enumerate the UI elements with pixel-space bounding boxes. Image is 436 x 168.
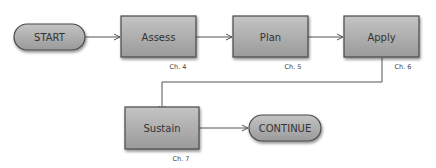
node-start-label: START [34,32,66,43]
node-assess-label: Assess [142,32,176,43]
node-continue-label: CONTINUE [259,123,312,134]
node-apply-label: Apply [367,32,395,43]
node-plan-chapter: Ch. 5 [285,63,302,71]
flowchart: START Assess Ch. 4 Plan Ch. 5 Apply Ch. … [0,0,436,168]
node-sustain-chapter: Ch. 7 [173,155,190,163]
node-sustain-label: Sustain [143,123,180,134]
node-assess-chapter: Ch. 4 [170,63,187,71]
edge-apply-sustain [162,58,382,112]
node-plan-label: Plan [260,32,281,43]
node-apply-chapter: Ch. 6 [395,63,412,71]
